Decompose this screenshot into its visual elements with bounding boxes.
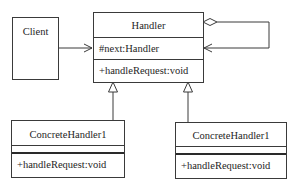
class-name: Client: [13, 27, 58, 38]
operation-handle-request: +handleRequest:void: [12, 160, 124, 171]
operation-handle-request: +handleRequest:void: [176, 161, 286, 172]
client-to-handler-association: [58, 44, 92, 52]
class-name: ConcreteHandler1: [12, 130, 124, 141]
divider: [94, 59, 203, 60]
divider: [176, 153, 286, 155]
class-client[interactable]: Client: [12, 17, 59, 80]
class-concrete-handler-right[interactable]: ConcreteHandler1 +handleRequest:void: [175, 122, 287, 179]
attribute-next: #next:Handler: [94, 44, 203, 55]
inheritance-triangle-icon: [109, 82, 118, 92]
left-generalization: [109, 82, 118, 120]
divider: [176, 146, 286, 147]
class-handler[interactable]: Handler #next:Handler +handleRequest:voi…: [93, 12, 204, 83]
class-concrete-handler-left[interactable]: ConcreteHandler1 +handleRequest:void: [11, 120, 125, 178]
divider: [94, 37, 203, 38]
handler-self-aggregation: [203, 19, 269, 53]
right-generalization: [184, 82, 193, 122]
divider: [12, 145, 124, 146]
operation-handle-request: +handleRequest:void: [94, 66, 203, 77]
inheritance-triangle-icon: [184, 82, 193, 92]
class-name: Handler: [94, 21, 203, 32]
class-name: ConcreteHandler1: [176, 131, 286, 142]
aggregation-diamond-icon: [203, 19, 217, 26]
divider: [12, 152, 124, 154]
